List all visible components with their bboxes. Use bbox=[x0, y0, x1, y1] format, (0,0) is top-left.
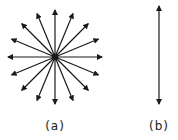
radial-arrow bbox=[22, 24, 55, 57]
radial-arrow bbox=[55, 57, 88, 90]
center-point bbox=[52, 54, 58, 60]
radial-arrows-panel bbox=[8, 10, 102, 104]
panel-b-label: (b) bbox=[149, 119, 169, 133]
radial-arrow bbox=[22, 57, 55, 90]
radial-arrow bbox=[55, 24, 88, 57]
panel-a-label: (a) bbox=[45, 119, 65, 133]
